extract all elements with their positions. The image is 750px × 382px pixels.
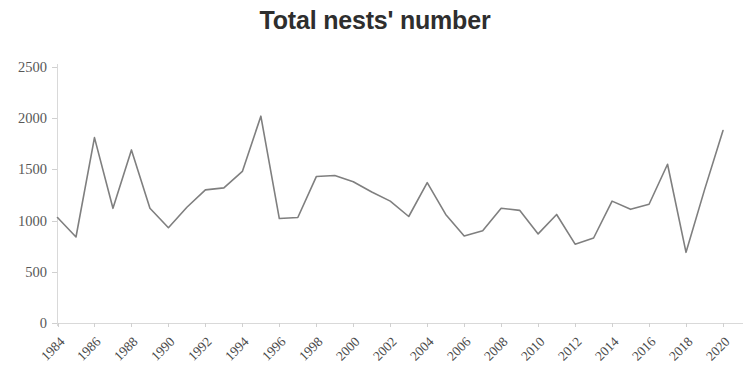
y-axis-tick-label: 1000 bbox=[18, 212, 47, 229]
x-axis-line bbox=[57, 323, 743, 324]
x-axis-tick-mark bbox=[390, 323, 391, 327]
x-axis-tick-mark bbox=[612, 323, 613, 327]
x-axis-tick-label: 1992 bbox=[185, 334, 215, 364]
chart-container: Total nests' number 05001000150020002500… bbox=[0, 0, 750, 382]
x-axis-tick-mark bbox=[58, 323, 59, 327]
y-axis-tick-mark bbox=[52, 272, 57, 273]
x-axis-tick-label: 1994 bbox=[222, 334, 252, 364]
x-axis-tick-mark bbox=[538, 323, 539, 327]
x-axis-tick-label: 1996 bbox=[259, 334, 289, 364]
x-axis-tick-mark bbox=[464, 323, 465, 327]
x-axis-tick-label: 2018 bbox=[666, 334, 696, 364]
x-axis-tick-mark bbox=[649, 323, 650, 327]
x-axis-tick-label: 2014 bbox=[592, 334, 622, 364]
x-axis-tick-label: 2004 bbox=[407, 334, 437, 364]
x-axis-tick-label: 2020 bbox=[703, 334, 733, 364]
y-axis-tick-mark bbox=[52, 169, 57, 170]
x-axis-tick-mark bbox=[316, 323, 317, 327]
y-axis-tick-label: 1500 bbox=[18, 161, 47, 178]
x-axis-tick-label: 1998 bbox=[296, 334, 326, 364]
x-axis-tick-mark bbox=[723, 323, 724, 327]
x-axis-tick-label: 2008 bbox=[481, 334, 511, 364]
x-axis-labels: 1984198619881990199219941996199820002002… bbox=[0, 326, 750, 382]
chart-title: Total nests' number bbox=[0, 6, 750, 35]
y-axis-labels: 05001000150020002500 bbox=[0, 55, 52, 335]
x-axis-tick-mark bbox=[242, 323, 243, 327]
y-axis-tick-mark bbox=[52, 67, 57, 68]
y-axis-tick-label: 500 bbox=[25, 263, 47, 280]
x-axis-tick-mark bbox=[94, 323, 95, 327]
x-axis-tick-label: 1986 bbox=[74, 334, 104, 364]
x-axis-tick-mark bbox=[131, 323, 132, 327]
x-axis-tick-mark bbox=[575, 323, 576, 327]
x-axis-tick-mark bbox=[353, 323, 354, 327]
x-axis-tick-label: 1990 bbox=[148, 334, 178, 364]
x-axis-tick-mark bbox=[686, 323, 687, 327]
x-axis-tick-label: 1984 bbox=[37, 334, 67, 364]
y-axis-tick-mark bbox=[52, 221, 57, 222]
x-axis-tick-label: 2002 bbox=[370, 334, 400, 364]
y-axis-tick-label: 2500 bbox=[18, 59, 47, 76]
x-axis-tick-mark bbox=[427, 323, 428, 327]
y-axis-tick-mark bbox=[52, 118, 57, 119]
x-axis-tick-mark bbox=[501, 323, 502, 327]
x-axis-tick-label: 2010 bbox=[518, 334, 548, 364]
x-axis-tick-label: 2012 bbox=[555, 334, 585, 364]
x-axis-tick-mark bbox=[279, 323, 280, 327]
y-axis-tick-mark bbox=[52, 323, 57, 324]
x-axis-tick-label: 1988 bbox=[111, 334, 141, 364]
x-axis-tick-label: 2006 bbox=[444, 334, 474, 364]
data-series-line bbox=[0, 0, 750, 382]
x-axis-tick-mark bbox=[205, 323, 206, 327]
x-axis-tick-label: 2016 bbox=[629, 334, 659, 364]
y-axis-line bbox=[57, 64, 58, 326]
x-axis-tick-mark bbox=[168, 323, 169, 327]
y-axis-tick-label: 2000 bbox=[18, 110, 47, 127]
x-axis-tick-label: 2000 bbox=[333, 334, 363, 364]
